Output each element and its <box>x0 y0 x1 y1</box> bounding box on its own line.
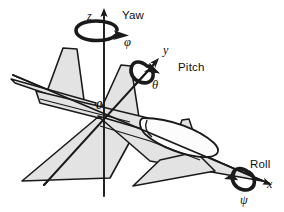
diagram-canvas <box>0 0 284 212</box>
pitch-label: Pitch <box>178 62 205 74</box>
yaw-arrow-loop <box>76 21 117 41</box>
psi-symbol-label: ψ <box>240 194 248 207</box>
aircraft-axes-diagram: z Yaw φ y Pitch θ 0 Roll x ψ <box>0 0 284 212</box>
origin-label: 0 <box>96 99 102 112</box>
theta-symbol-label: θ <box>152 79 158 92</box>
x-axis-label: x <box>267 178 272 190</box>
y-axis-label: y <box>163 44 168 56</box>
yaw-label: Yaw <box>122 10 144 22</box>
yaw-rotation-arrow <box>76 21 129 41</box>
z-axis-label: z <box>87 10 92 22</box>
roll-label: Roll <box>250 159 271 171</box>
phi-symbol-label: φ <box>124 36 131 49</box>
